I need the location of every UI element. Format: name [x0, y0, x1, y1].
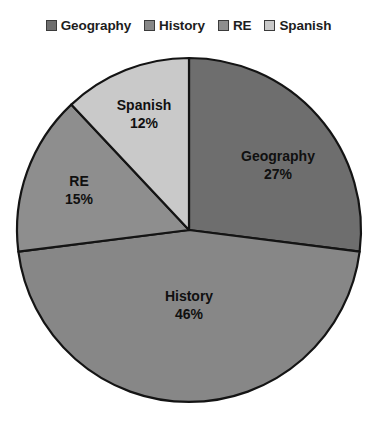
- pie-slice-history[interactable]: [18, 230, 359, 402]
- pie-svg: [0, 0, 377, 427]
- pie-slice-geography[interactable]: [189, 58, 361, 252]
- pie-graphic: [0, 0, 377, 427]
- pie-chart-figure: Geography History RE Spanish Geography 2…: [0, 0, 377, 427]
- pie-slices-group: [17, 58, 361, 402]
